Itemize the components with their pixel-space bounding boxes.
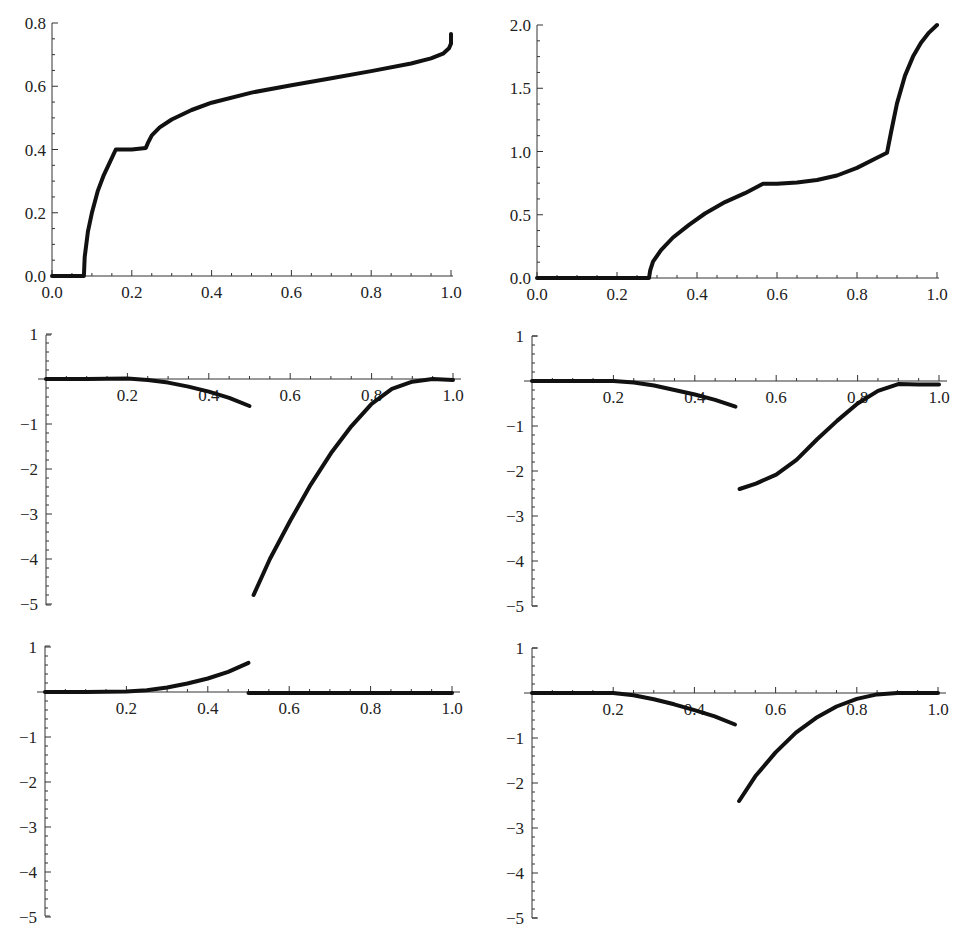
- y-tick-label: 0.6: [25, 77, 46, 96]
- y-tick-label: −3: [20, 505, 38, 524]
- x-tick-label: 0.4: [197, 699, 219, 718]
- x-tick-label: 0.2: [606, 285, 627, 304]
- y-tick-label: 1.5: [510, 79, 531, 98]
- panel-top-left: 0.00.20.40.60.81.00.00.20.40.60.8: [25, 14, 462, 302]
- panel-middle-left: 0.20.40.60.81.01−1−2−3−4−5: [20, 325, 464, 614]
- panel-top-right: 0.00.20.40.60.81.00.00.51.01.52.0: [510, 16, 948, 304]
- x-tick-label: 0.4: [201, 283, 223, 302]
- x-tick-label: 0.6: [766, 285, 787, 304]
- panel-bottom-right: 0.20.40.60.81.01−1−2−3−4−5: [506, 639, 949, 928]
- y-tick-label: 2.0: [510, 16, 531, 35]
- panel-middle-right: 0.20.40.60.81.01−1−2−3−4−5: [506, 327, 950, 616]
- panel-bottom-left: 0.20.40.60.81.01−1−2−3−4−5: [19, 638, 463, 927]
- y-tick-label: −2: [506, 774, 524, 793]
- curve-segment-1: [45, 663, 249, 692]
- y-tick-label: −4: [506, 552, 525, 571]
- curve-curve: [537, 25, 937, 278]
- y-tick-label: 0.0: [510, 269, 531, 288]
- y-tick-label: −5: [20, 595, 38, 614]
- x-tick-label: 0.2: [603, 388, 624, 407]
- x-tick-label: 1.0: [440, 283, 461, 302]
- y-tick-label: 1: [516, 639, 525, 658]
- x-tick-label: 0.6: [281, 283, 302, 302]
- y-tick-label: −3: [506, 819, 524, 838]
- x-tick-label: 0.2: [121, 283, 142, 302]
- x-tick-label: 0.6: [279, 699, 300, 718]
- y-tick-label: −5: [506, 909, 524, 928]
- x-tick-label: 0.8: [361, 283, 382, 302]
- y-tick-label: −4: [20, 550, 39, 569]
- x-tick-label: 0.6: [765, 700, 786, 719]
- y-tick-label: −1: [19, 728, 37, 747]
- x-tick-label: 1.0: [441, 699, 462, 718]
- x-tick-label: 0.6: [766, 388, 787, 407]
- y-tick-label: −5: [19, 908, 37, 927]
- y-tick-label: 1: [516, 327, 525, 346]
- y-tick-label: 1: [29, 638, 38, 657]
- y-tick-label: −5: [506, 597, 524, 616]
- y-tick-label: 0.2: [25, 204, 46, 223]
- y-tick-label: 1: [30, 325, 39, 344]
- y-tick-label: 1.0: [510, 143, 531, 162]
- y-tick-label: −3: [506, 507, 524, 526]
- chart-grid: 0.00.20.40.60.81.00.00.20.40.60.80.00.20…: [0, 0, 966, 944]
- y-tick-label: 0.0: [25, 267, 46, 286]
- y-tick-label: −3: [19, 818, 37, 837]
- x-tick-label: 1.0: [926, 285, 947, 304]
- y-tick-label: −1: [506, 729, 524, 748]
- y-tick-label: −2: [19, 773, 37, 792]
- y-tick-label: 0.4: [25, 141, 47, 160]
- x-tick-label: 1.0: [927, 700, 948, 719]
- curve-curve: [52, 34, 451, 276]
- x-tick-label: 0.2: [116, 699, 137, 718]
- x-tick-label: 0.2: [117, 386, 138, 405]
- curve-segment-2: [254, 379, 453, 595]
- x-tick-label: 0.6: [280, 386, 301, 405]
- y-tick-label: −4: [506, 864, 525, 883]
- x-tick-label: 1.0: [928, 388, 949, 407]
- x-tick-label: 0.8: [360, 699, 381, 718]
- y-tick-label: −2: [506, 462, 524, 481]
- y-tick-label: 0.5: [510, 206, 531, 225]
- x-tick-label: 0.8: [846, 285, 867, 304]
- x-tick-label: 0.2: [603, 700, 624, 719]
- y-tick-label: −4: [19, 863, 38, 882]
- y-tick-label: −1: [20, 415, 38, 434]
- x-tick-label: 0.4: [686, 285, 708, 304]
- y-tick-label: −1: [506, 417, 524, 436]
- x-tick-label: 1.0: [442, 386, 463, 405]
- y-tick-label: 0.8: [25, 14, 46, 33]
- y-tick-label: −2: [20, 460, 38, 479]
